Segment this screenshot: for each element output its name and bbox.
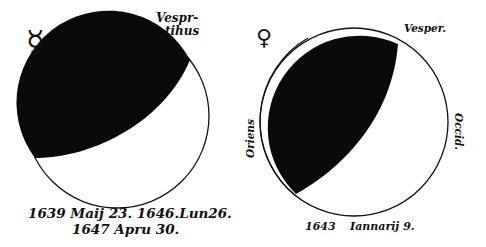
- right-caption-date: Iannarij 9.: [349, 220, 415, 233]
- venus-symbol-icon: ♀: [256, 25, 272, 50]
- phase-diagrams: Vespr- tihus ☿ 1639 Maij 23. 1646.Lun26.…: [0, 0, 486, 247]
- right-label-vesper: Vesper.: [404, 22, 446, 34]
- right-phase-figure: Vesper. ♀ Oriens Occid. 1643 Iannarij 9.: [244, 22, 465, 233]
- right-label-oriens: Oriens: [244, 119, 256, 158]
- left-label-vespr: Vespr-: [156, 11, 198, 25]
- left-label-tihus: tihus: [165, 24, 200, 38]
- left-caption-line1: 1639 Maij 23. 1646.Lun26.: [28, 205, 232, 221]
- left-phase-figure: Vespr- tihus ☿ 1639 Maij 23. 1646.Lun26.…: [16, 11, 231, 237]
- left-caption-line2: 1647 Apru 30.: [72, 221, 179, 237]
- right-label-occid: Occid.: [453, 113, 465, 150]
- right-caption-year: 1643: [305, 220, 336, 233]
- mercury-symbol-icon: ☿: [26, 24, 44, 59]
